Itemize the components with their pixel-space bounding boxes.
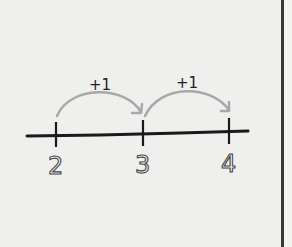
jump-label-2: +1 (176, 74, 198, 92)
jump-arrow-2 (145, 91, 229, 116)
number-line-diagram: +1 +1 2 3 4 (0, 0, 292, 247)
tick-label-2: 2 (48, 152, 63, 180)
number-line-axis (27, 131, 248, 136)
tick-label-3: 3 (135, 151, 150, 179)
jump-arrow-1 (57, 92, 141, 116)
tick-label-4: 4 (221, 150, 236, 178)
jump-label-1: +1 (89, 76, 111, 94)
